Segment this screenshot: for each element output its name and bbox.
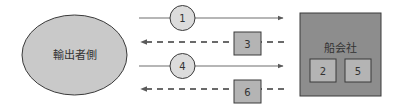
exporter-node: 輸出者側: [22, 15, 127, 95]
flow-step-4: 4: [139, 54, 283, 79]
exporter-label: 輸出者側: [53, 48, 97, 62]
shipping-company-label: 船会社: [324, 41, 357, 55]
flow-diagram: 輸出者側 1 3 4 6 船会社 2 5: [0, 0, 402, 108]
flow-step-3: 3: [141, 32, 284, 55]
flow-step-1: 1: [139, 6, 283, 31]
step-number: 6: [244, 87, 250, 98]
step-number: 4: [179, 61, 185, 72]
flow-step-6: 6: [141, 80, 284, 103]
shipping-company-node: 船会社 2 5: [300, 13, 381, 96]
step-number: 2: [320, 66, 326, 77]
step-number: 5: [355, 66, 361, 77]
step-number: 1: [179, 13, 185, 24]
step-number: 3: [244, 39, 250, 50]
